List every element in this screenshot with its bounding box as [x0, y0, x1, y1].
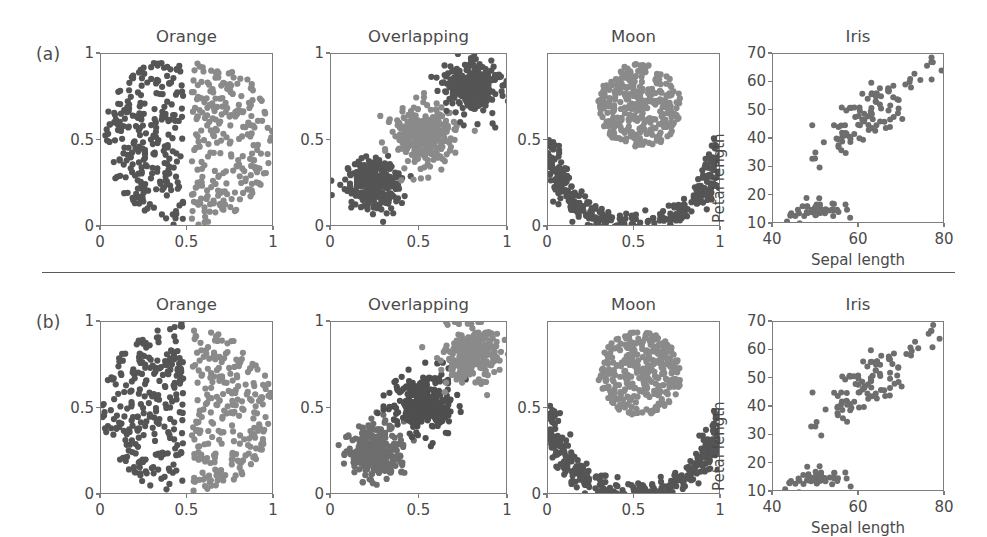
panel-title-b-iris: Iris	[772, 295, 944, 314]
xtick-label-b-iris-1: 60	[828, 498, 888, 516]
ytick-mark-b-iris-4	[768, 377, 772, 378]
ytick-label-b-iris-2: 30	[726, 425, 766, 443]
xtick-label-b-iris-2: 80	[914, 498, 974, 516]
plot-area-b-iris	[772, 321, 944, 491]
ytick-mark-b-iris-1	[768, 462, 772, 463]
xtick-mark-b-iris-2	[943, 491, 944, 495]
xtick-label-b-iris-0: 40	[742, 498, 802, 516]
xtick-mark-b-iris-1	[857, 491, 858, 495]
xaxis-title-b-iris: Sepal length	[772, 519, 944, 537]
figure-root: (a)(b)Orange00.5100.51Overlapping00.5100…	[0, 0, 987, 537]
ytick-label-b-iris-6: 70	[726, 312, 766, 330]
ytick-mark-b-iris-3	[768, 405, 772, 406]
ytick-label-b-iris-3: 40	[726, 397, 766, 415]
xtick-mark-b-iris-0	[771, 491, 772, 495]
ytick-label-b-iris-4: 50	[726, 369, 766, 387]
ytick-mark-b-iris-2	[768, 434, 772, 435]
ytick-label-b-iris-1: 20	[726, 454, 766, 472]
ytick-label-b-iris-5: 60	[726, 340, 766, 358]
ytick-mark-b-iris-5	[768, 349, 772, 350]
panel-b-iris: Iris10203040506070406080Sepal lengthPeta…	[0, 0, 987, 537]
ytick-mark-b-iris-6	[768, 320, 772, 321]
scatter-canvas-b-iris	[773, 322, 944, 491]
yaxis-title-b-iris: Petal length	[710, 401, 728, 491]
